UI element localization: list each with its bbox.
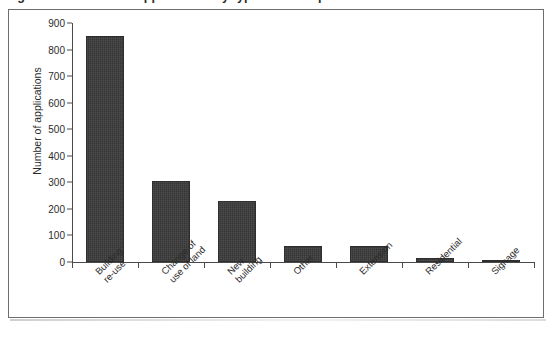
- y-axis-tick-label: 500: [31, 124, 65, 135]
- x-axis-tick-mark: [72, 262, 73, 268]
- bar-chart-plot: Number of applications 90080070060050040…: [9, 10, 545, 319]
- x-axis-tick-labels: Buildingre-useChange ofuse of landNewbui…: [72, 269, 534, 319]
- chart-frame: Number of applications 90080070060050040…: [8, 9, 544, 318]
- x-axis-tick-mark: [204, 262, 205, 268]
- y-axis-tick-label: 900: [31, 18, 65, 29]
- x-axis-tick-mark: [534, 262, 535, 268]
- y-axis-tick-label: 0: [31, 257, 65, 268]
- bar: [86, 36, 124, 262]
- frame-shadow: [10, 319, 546, 321]
- figure-caption: Figure 3.4 Number of applications by typ…: [6, 0, 356, 3]
- y-axis-tick-label: 700: [31, 71, 65, 82]
- y-axis-tick-label: 300: [31, 177, 65, 188]
- y-axis-tick-label: 400: [31, 150, 65, 161]
- y-axis-tick-labels: 9008007006005004003002001000: [31, 10, 65, 319]
- figure-caption-strip: Figure 3.4 Number of applications by typ…: [0, 0, 553, 9]
- y-axis-tick-label: 100: [31, 230, 65, 241]
- x-axis-tick-mark: [468, 262, 469, 268]
- x-axis-tick-mark: [336, 262, 337, 268]
- bar-series: [72, 23, 534, 262]
- y-axis-tick-label: 200: [31, 203, 65, 214]
- x-axis-tick-mark: [402, 262, 403, 268]
- y-axis-tick-label: 600: [31, 97, 65, 108]
- y-axis-tick-label: 800: [31, 44, 65, 55]
- x-axis-tick-mark: [138, 262, 139, 268]
- x-axis-tick-mark: [270, 262, 271, 268]
